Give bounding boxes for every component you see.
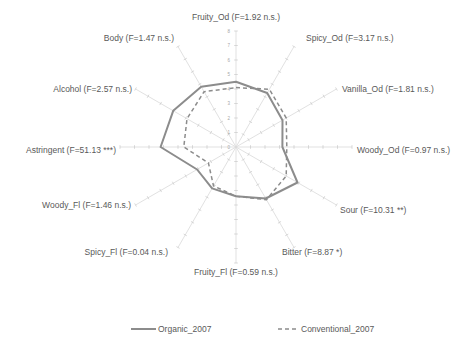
legend-conventional-label: Conventional_2007 xyxy=(301,324,375,334)
radar-spokes xyxy=(120,31,352,263)
axis-label: Fruity_Fl (F=0.59 n.s.) xyxy=(194,267,278,277)
radial-tick-label: 3 xyxy=(227,101,230,106)
radial-tick-label: 6 xyxy=(227,58,230,63)
axis-label: Spicy_Od (F=3.17 n.s.) xyxy=(306,33,394,43)
axis-label: Astringent (F=51.13 ***) xyxy=(26,145,116,155)
chart-legend: Organic_2007 Conventional_2007 xyxy=(131,324,375,334)
axis-label: Fruity_Od (F=1.92 n.s.) xyxy=(192,12,280,22)
axis-labels: Fruity_Od (F=1.92 n.s.)Spicy_Od (F=3.17 … xyxy=(26,12,450,277)
axis-label: Body (F=1.47 n.s.) xyxy=(104,33,174,43)
legend-organic-label: Organic_2007 xyxy=(158,324,212,334)
axis-label: Bitter (F=8.87 *) xyxy=(282,247,342,257)
radar-series xyxy=(161,82,298,200)
series-conventional-2007 xyxy=(184,88,287,200)
axis-label: Woody_Fl (F=1.46 n.s.) xyxy=(42,200,131,210)
radial-tick-label: 2 xyxy=(227,116,230,121)
radar-chart: 012345678 Fruity_Od (F=1.92 n.s.)Spicy_O… xyxy=(0,0,466,354)
radial-tick-label: 7 xyxy=(227,43,230,48)
axis-label: Woody_Od (F=0.97 n.s.) xyxy=(357,145,450,155)
axis-label: Sour (F=10.31 **) xyxy=(340,205,407,215)
series-organic-2007 xyxy=(161,82,298,199)
radial-tick-label: 1 xyxy=(227,130,230,135)
radial-tick-label: 5 xyxy=(227,72,230,77)
axis-label: Vanilla_Od (F=1.81 n.s.) xyxy=(342,84,434,94)
radial-tick-label: 8 xyxy=(227,29,230,34)
axis-label: Alcohol (F=2.57 n.s.) xyxy=(53,84,132,94)
axis-label: Spicy_Fl (F=0.04 n.s.) xyxy=(85,247,169,257)
